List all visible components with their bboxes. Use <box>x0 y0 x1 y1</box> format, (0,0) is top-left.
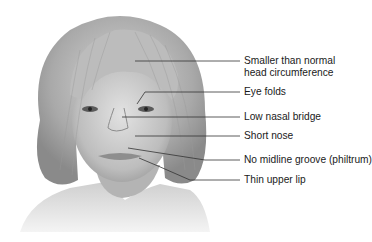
label-line: head circumference <box>244 67 335 79</box>
label-low-nasal-bridge: Low nasal bridge <box>244 111 321 123</box>
label-head-circumference: Smaller than normal head circumference <box>244 55 335 79</box>
label-short-nose: Short nose <box>244 130 293 142</box>
label-line: Smaller than normal <box>244 55 335 67</box>
label-philtrum: No midline groove (philtrum) <box>244 154 372 166</box>
label-eye-folds: Eye folds <box>244 86 286 98</box>
label-thin-upper-lip: Thin upper lip <box>244 174 306 186</box>
